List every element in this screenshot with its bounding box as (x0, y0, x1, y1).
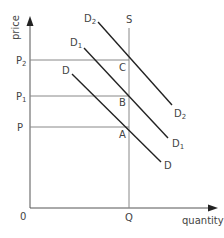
price-label-p2: P2 (16, 55, 27, 68)
price-label-p1: P1 (16, 91, 27, 104)
demand-curve-d (72, 74, 161, 162)
demand-curve-d2 (98, 22, 172, 105)
y-axis-label: price (10, 15, 21, 40)
point-label-a: A (119, 129, 126, 140)
supply-demand-diagram: price quantity 0 P2 P1 P Q S D2 D1 D D2 … (0, 0, 224, 238)
price-label-p: P (17, 122, 23, 133)
y-axis-arrow-icon (27, 16, 34, 26)
demand-label-d-top: D (62, 65, 70, 76)
quantity-label-q: Q (125, 212, 133, 223)
x-axis-label: quantity (182, 215, 224, 226)
point-label-b: B (119, 97, 126, 108)
origin-label: 0 (20, 211, 26, 222)
point-label-c: C (119, 62, 126, 73)
demand-label-d-bottom: D (164, 160, 172, 171)
demand-label-d2-bottom: D2 (174, 108, 186, 121)
x-axis-arrow-icon (208, 205, 218, 212)
demand-label-d2-top: D2 (84, 13, 96, 26)
demand-curve-d1 (84, 48, 168, 138)
demand-label-d1-top: D1 (70, 37, 82, 50)
demand-label-d1-bottom: D1 (172, 138, 184, 151)
supply-label: S (126, 14, 132, 25)
